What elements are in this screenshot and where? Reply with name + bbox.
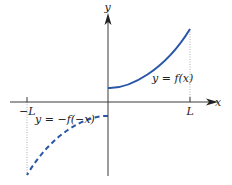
- curve-f-label: y = f(x): [151, 72, 193, 85]
- tick-left-label: −L: [19, 105, 36, 118]
- x-axis-label: x: [215, 96, 222, 109]
- y-axis-label: y: [104, 1, 112, 14]
- tick-right-label: L: [186, 105, 194, 118]
- odd-extension-diagram: x y −L L y = f(x) y = −f(−x): [0, 0, 232, 185]
- curve-neg-f-neg-label: y = −f(−x): [34, 113, 95, 126]
